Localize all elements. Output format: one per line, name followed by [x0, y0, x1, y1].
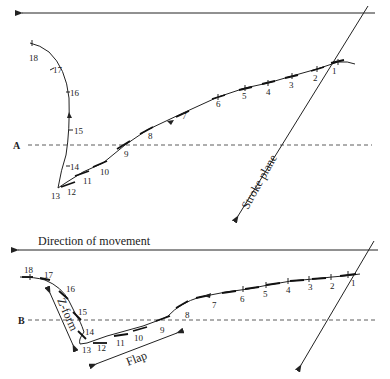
panel-b: Direction of movement B	[18, 234, 378, 369]
point-label-a-1: 1	[332, 66, 337, 76]
point-label-b-13: 13	[82, 345, 92, 355]
point-label-a-5: 5	[242, 91, 247, 101]
point-label-b-15: 15	[78, 307, 88, 317]
point-label-a-6: 6	[216, 99, 221, 109]
point-label-b-16: 16	[66, 284, 76, 294]
point-label-a-12: 12	[67, 187, 76, 197]
point-label-a-7: 7	[182, 111, 187, 121]
point-label-a-16: 16	[70, 88, 80, 98]
direction-of-movement-label: Direction of movement	[38, 234, 151, 248]
point-label-b-5: 5	[263, 289, 268, 299]
point-label-b-17: 17	[44, 270, 54, 280]
point-label-b-9: 9	[160, 325, 165, 335]
reference-label-a: A	[13, 140, 21, 151]
point-label-a-15: 15	[74, 126, 84, 136]
point-label-a-18: 18	[29, 53, 39, 63]
point-label-a-14: 14	[70, 162, 80, 172]
point-label-b-2: 2	[330, 281, 335, 291]
point-label-b-11: 11	[116, 338, 125, 348]
stroke-plane-line-b	[301, 241, 374, 365]
point-label-a-11: 11	[83, 176, 92, 186]
point-label-b-18: 18	[24, 265, 34, 275]
point-label-a-13: 13	[51, 191, 61, 201]
path-arrowhead-a1	[167, 120, 174, 125]
panel-a: A Stroke plane	[13, 6, 375, 216]
point-label-b-3: 3	[308, 282, 313, 292]
reference-label-b: B	[18, 315, 25, 326]
point-labels-a: 1 2 3 4 5 6 7 8 9 10 11 12 13 14 15 16 1…	[29, 53, 337, 201]
point-ticks-a	[32, 40, 338, 166]
point-label-a-10: 10	[100, 167, 110, 177]
point-label-b-12: 12	[97, 343, 106, 353]
point-label-b-10: 10	[134, 333, 144, 343]
point-label-b-6: 6	[240, 294, 245, 304]
point-ticks-b	[30, 271, 348, 292]
point-label-b-7: 7	[212, 300, 217, 310]
point-label-a-9: 9	[124, 149, 129, 159]
point-label-a-8: 8	[148, 131, 153, 141]
flap-label: Flap	[124, 348, 149, 369]
wing-stroke-diagram: A Stroke plane	[0, 0, 390, 379]
point-label-a-3: 3	[289, 80, 294, 90]
stroke-plane-label: Stroke plane	[238, 152, 279, 212]
point-label-a-2: 2	[313, 73, 318, 83]
point-label-a-4: 4	[266, 87, 271, 97]
point-label-a-17: 17	[53, 65, 63, 75]
point-label-b-8: 8	[185, 310, 190, 320]
point-label-b-1: 1	[351, 278, 356, 288]
point-label-b-4: 4	[286, 285, 291, 295]
point-label-b-14: 14	[85, 327, 95, 337]
